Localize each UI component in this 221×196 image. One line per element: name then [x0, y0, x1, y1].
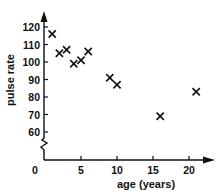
- data-point-x-marker: [106, 74, 113, 81]
- y-tick-label: 110: [23, 39, 40, 51]
- y-tick-label: 120: [22, 21, 40, 33]
- scatter-chart: 60708090100110120 05101520 pulse rate ag…: [0, 0, 221, 196]
- y-tick-label: 100: [22, 56, 40, 68]
- x-tick-label: 5: [78, 164, 84, 176]
- x-axis-label: age (years): [117, 178, 175, 190]
- x-tick-label: 15: [147, 164, 159, 176]
- x-tick-label: 0: [32, 164, 38, 176]
- y-axis-line: [41, 14, 47, 160]
- x-tick-label: 10: [111, 164, 123, 176]
- data-point-x-marker: [157, 113, 164, 120]
- x-axis-arrow-icon: [203, 157, 215, 164]
- data-point-x-marker: [49, 30, 56, 37]
- axes: [41, 11, 216, 164]
- y-tick-label: 80: [28, 91, 40, 103]
- data-point-x-marker: [56, 50, 63, 57]
- data-points: [49, 30, 200, 119]
- x-axis-ticks: 05101520: [32, 156, 195, 176]
- x-tick-label: 20: [183, 164, 195, 176]
- scatter-plot-canvas: 60708090100110120 05101520 pulse rate ag…: [0, 0, 221, 196]
- y-axis-arrow-icon: [41, 11, 48, 22]
- y-tick-label: 70: [28, 109, 40, 121]
- y-axis-label: pulse rate: [4, 54, 16, 106]
- data-point-x-marker: [70, 60, 77, 67]
- data-point-x-marker: [113, 81, 120, 88]
- y-tick-label: 60: [28, 126, 40, 138]
- data-point-x-marker: [85, 48, 92, 55]
- data-point-x-marker: [63, 46, 70, 53]
- y-tick-label: 90: [28, 74, 40, 86]
- data-point-x-marker: [193, 88, 200, 95]
- data-point-x-marker: [77, 57, 84, 64]
